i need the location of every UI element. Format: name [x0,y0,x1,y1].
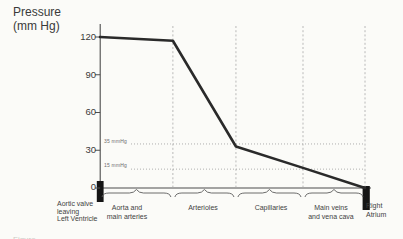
y-tick-label-0: 0 [68,181,96,192]
y-tick-label-30: 30 [68,144,96,155]
segment-label-capillaries: Capillaries [239,204,303,213]
y-tick-label-120: 120 [68,31,96,42]
pressure-axis-title: Pressure (mm Hg) [13,5,61,33]
segment-brace [238,190,301,198]
segment-label-right-atrium: Right Atrium [366,202,402,219]
caption-fragment: Figure [13,235,36,239]
segment-label-arterioles: Arterioles [171,204,235,213]
reference-label-15mmhg: 15 mmHg [104,163,127,168]
reference-label-35mmhg: 35 mmHg [104,139,127,144]
pressure-curve [100,37,365,188]
segment-brace [175,190,234,198]
segment-brace [305,190,363,198]
aortic-valve-marker-bar [97,181,104,202]
pressure-chart: Pressure (mm Hg) 120 90 60 30 0 35 mmHg … [0,0,403,239]
y-tick-label-60: 60 [68,106,96,117]
y-tick-label-90: 90 [68,69,96,80]
segment-label-main-veins: Main veins and vena cava [298,204,364,221]
segment-brace [102,190,171,198]
segment-label-aorta: Aorta and main arteries [95,204,159,221]
